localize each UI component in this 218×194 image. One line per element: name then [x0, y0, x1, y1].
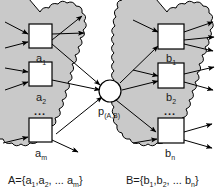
joint-node-label-sub: (A,B)	[104, 112, 120, 120]
set-A-label: A={a1,a2, ... am}	[8, 174, 83, 188]
node-b1-label-sub: 1	[172, 59, 176, 66]
nodes-A	[29, 24, 52, 142]
set-A-base: A={a	[8, 174, 32, 186]
node-bn-box[interactable]	[158, 118, 184, 143]
set-A-close: }	[79, 174, 83, 186]
node-a2-label-sub: 2	[42, 98, 46, 105]
node-a1-box[interactable]	[29, 24, 52, 48]
node-a2-box[interactable]	[29, 62, 52, 86]
output-arrow-bn-lower	[184, 140, 212, 148]
output-arrow-bn-upper	[184, 124, 212, 132]
node-b1-box[interactable]	[158, 24, 184, 49]
node-b2-label-sub: 2	[172, 98, 176, 105]
diagram-root: a1 a2 ... am b1 b2 ... bn p	[0, 0, 218, 194]
set-B-ellipsis: , ... b	[167, 174, 191, 186]
set-B-close: }	[195, 174, 199, 186]
cloud-A-ellipsis: ...	[34, 105, 46, 117]
nodes-B	[158, 24, 184, 143]
joint-node-circle[interactable]	[99, 80, 121, 102]
node-am-box[interactable]	[29, 118, 52, 142]
node-bn-label-sub: n	[171, 154, 175, 161]
node-bn-label: bn	[165, 147, 175, 161]
node-am-label: am	[35, 147, 47, 161]
node-b2-box[interactable]	[158, 63, 184, 88]
node-a1-label-sub: 1	[42, 59, 46, 66]
set-B-label: B={b1,b2, ... bn}	[126, 174, 199, 188]
node-am-label-sub: m	[41, 154, 47, 161]
cloud-B-ellipsis: ...	[164, 105, 176, 117]
diagram-canvas: a1 a2 ... am b1 b2 ... bn p	[0, 0, 218, 194]
set-B-mid: ,b	[153, 174, 162, 186]
output-arrow-am-down	[52, 140, 78, 152]
set-A-ellipsis: , ... a	[49, 174, 74, 186]
set-B-base: B={b	[126, 174, 150, 186]
